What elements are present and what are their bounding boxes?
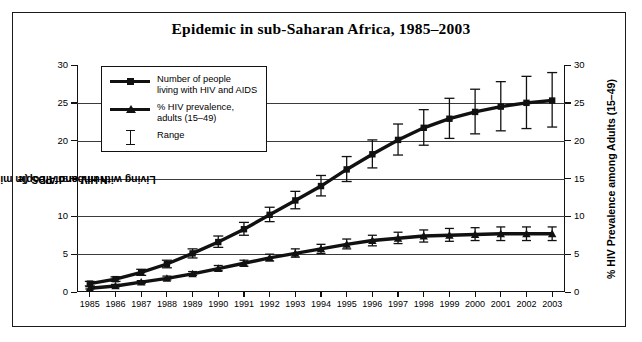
x-axis-tick — [192, 292, 193, 297]
y-axis-tick-label: 20 — [574, 136, 585, 146]
x-axis-tick — [449, 292, 450, 297]
data-point-square — [523, 100, 529, 106]
data-point-square — [446, 116, 452, 122]
y-axis-tick-label: 0 — [574, 287, 579, 297]
y-axis-tick-label: 30 — [57, 60, 68, 70]
y-axis-tick-label: 15 — [574, 174, 585, 184]
data-point-square — [112, 276, 118, 282]
x-axis-tick-label: 1985 — [80, 300, 100, 309]
legend-item-prevalence-line1: % HIV prevalence, — [157, 102, 234, 112]
y-axis-tick-label: 30 — [574, 60, 585, 70]
x-axis-tick-label: 1999 — [439, 300, 459, 309]
y-axis-tick — [565, 254, 571, 255]
y-axis-tick — [565, 178, 571, 179]
x-axis-tick-label: 1987 — [131, 300, 151, 309]
chart-title: Epidemic in sub-Saharan Africa, 1985–200… — [0, 20, 642, 38]
legend-item-prevalence-line2: adults (15–49) — [157, 113, 216, 123]
data-point-square — [241, 226, 247, 232]
triangle-marker-icon — [110, 102, 150, 116]
data-point-square — [369, 151, 375, 157]
chart-figure: Epidemic in sub-Saharan Africa, 1985–200… — [0, 0, 642, 342]
x-axis-tick-label: 1992 — [260, 300, 280, 309]
series-line — [90, 234, 552, 288]
x-axis-tick — [526, 292, 527, 297]
x-axis-tick-label: 2000 — [465, 300, 485, 309]
x-axis-tick — [141, 292, 142, 297]
legend-item-people-line2: living with HIV and AIDS — [157, 85, 257, 95]
x-axis-tick — [346, 292, 347, 297]
y-axis-tick-label: 10 — [574, 211, 585, 221]
chart-legend: Number of people living with HIV and AID… — [101, 66, 267, 152]
y-axis-tick — [565, 65, 571, 66]
data-point-square — [292, 197, 298, 203]
x-axis-tick-label: 1989 — [183, 300, 203, 309]
y-axis-tick-label: 0 — [63, 287, 68, 297]
x-axis-tick-label: 1986 — [106, 300, 126, 309]
y-axis-tick-label: 25 — [57, 98, 68, 108]
x-axis-tick-label: 1994 — [311, 300, 331, 309]
data-point-square — [395, 137, 401, 143]
x-axis-tick-label: 2002 — [516, 300, 536, 309]
series-prevalence — [85, 227, 556, 292]
data-point-square — [138, 269, 144, 275]
x-axis-tick-label: 1993 — [285, 300, 305, 309]
x-axis-tick-label: 1995 — [337, 300, 357, 309]
legend-item-prevalence: % HIV prevalence, adults (15–49) — [110, 102, 234, 124]
data-point-square — [318, 183, 324, 189]
legend-item-people-line1: Number of people — [157, 74, 231, 84]
data-point-square — [498, 103, 504, 109]
x-axis-tick-label: 1997 — [388, 300, 408, 309]
data-point-square — [343, 166, 349, 172]
square-marker-icon — [110, 74, 150, 88]
x-axis-tick — [218, 292, 219, 297]
x-axis-tick-label: 1998 — [414, 300, 434, 309]
y-axis-tick — [565, 102, 571, 103]
data-point-square — [266, 212, 272, 218]
x-axis-tick — [475, 292, 476, 297]
x-axis-tick-label: 2001 — [491, 300, 511, 309]
x-axis-tick-label: 1996 — [362, 300, 382, 309]
y-axis-tick — [565, 292, 571, 293]
x-axis-tick — [552, 292, 553, 297]
y-axis-tick-label: 10 — [57, 211, 68, 221]
x-axis-tick — [320, 292, 321, 297]
y-axis-left-title-line2: Living with HIV and AIDS (in millions) — [0, 172, 156, 185]
data-point-square — [164, 261, 170, 267]
x-axis-tick-label: 2003 — [542, 300, 562, 309]
y-axis-tick-label: 20 — [57, 136, 68, 146]
range-bar-icon — [110, 130, 150, 144]
y-axis-tick-label: 5 — [574, 249, 579, 259]
x-axis-tick — [89, 292, 90, 297]
data-point-square — [549, 97, 555, 103]
data-point-square — [215, 239, 221, 245]
x-axis-tick — [243, 292, 244, 297]
x-axis-tick-label: 1991 — [234, 300, 254, 309]
y-axis-tick-label: 25 — [574, 98, 585, 108]
x-axis-tick — [166, 292, 167, 297]
x-axis-tick — [500, 292, 501, 297]
data-point-square — [421, 125, 427, 131]
y-axis-tick — [565, 140, 571, 141]
legend-item-people: Number of people living with HIV and AID… — [110, 74, 257, 96]
data-point-square — [189, 250, 195, 256]
legend-item-range-label: Range — [157, 130, 184, 140]
x-axis-tick — [372, 292, 373, 297]
y-axis-tick-label: 5 — [63, 249, 68, 259]
y-axis-right-title-label: % HIV Prevalence among Adults (15–49) — [605, 79, 618, 279]
x-axis-tick — [269, 292, 270, 297]
data-point-square — [472, 109, 478, 115]
x-axis-tick-label: 1990 — [208, 300, 228, 309]
x-axis-tick-label: 1988 — [157, 300, 177, 309]
x-axis-tick — [397, 292, 398, 297]
x-axis-tick — [115, 292, 116, 297]
y-axis-tick — [565, 216, 571, 217]
x-axis-tick — [423, 292, 424, 297]
legend-item-range: Range — [110, 130, 184, 144]
x-axis-tick — [295, 292, 296, 297]
